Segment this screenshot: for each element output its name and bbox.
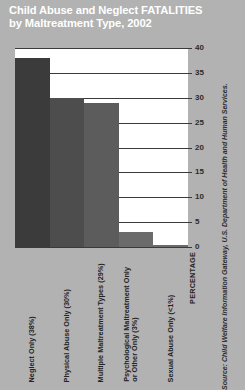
y-tick-label-5: 5 [195, 217, 199, 226]
y-tick-10: 10 [188, 197, 218, 198]
y-tick-mark-25 [188, 123, 192, 124]
y-tick-label-30: 30 [195, 93, 204, 102]
x-axis-label-4: Sexual Abuse Only (<1%) [153, 250, 188, 382]
chart-title: Child Abuse and Neglect FATALITIES by Ma… [9, 4, 237, 30]
y-tick-5: 5 [188, 222, 218, 223]
x-axis-label-3: Psychological Maltreatment Onlyor Other … [119, 250, 154, 382]
y-tick-label-10: 10 [195, 192, 204, 201]
y-axis-ticks: 4035302520151050 [188, 48, 218, 247]
x-axis-category-labels: Neglect Only (38%) Physical Abuse Only (… [15, 250, 188, 382]
x-axis-label-0: Neglect Only (38%) [15, 250, 50, 382]
bar-4 [153, 245, 188, 247]
y-tick-label-35: 35 [195, 68, 204, 77]
y-tick-label-40: 40 [195, 43, 204, 52]
y-tick-label-20: 20 [195, 143, 204, 152]
chart-title-line-2: by Maltreatment Type, 2002 [9, 17, 152, 29]
bar-2 [84, 103, 119, 247]
y-tick-mark-5 [188, 222, 192, 223]
bar-0 [15, 58, 50, 247]
y-tick-0: 0 [188, 247, 218, 248]
y-axis-title: PERCENTAGE [188, 252, 197, 304]
y-tick-label-0: 0 [195, 242, 199, 251]
x-axis-label-1-text: Physical Abuse Only (30%) [62, 289, 70, 382]
y-tick-label-15: 15 [195, 167, 204, 176]
y-tick-mark-0 [188, 247, 192, 248]
y-tick-mark-35 [188, 73, 192, 74]
plot-area [15, 48, 188, 247]
x-axis-label-0-text: Neglect Only (38%) [28, 316, 36, 382]
gridline-0 [15, 247, 188, 248]
x-axis-label-1: Physical Abuse Only (30%) [50, 250, 85, 382]
y-tick-label-25: 25 [195, 118, 204, 127]
bar-3 [119, 232, 154, 247]
x-axis-label-4-text: Sexual Abuse Only (<1%) [166, 294, 174, 382]
y-tick-30: 30 [188, 98, 218, 99]
y-tick-25: 25 [188, 123, 218, 124]
y-tick-15: 15 [188, 172, 218, 173]
bar-1 [50, 98, 85, 247]
source-note: Source: Child Welfare Information Gatewa… [221, 83, 228, 390]
y-tick-35: 35 [188, 73, 218, 74]
bar-series [15, 48, 188, 247]
x-axis-label-2-text: Multiple Maltreatment Types (29%) [97, 263, 105, 382]
y-tick-40: 40 [188, 48, 218, 49]
y-tick-mark-30 [188, 98, 192, 99]
y-tick-mark-15 [188, 172, 192, 173]
y-tick-20: 20 [188, 148, 218, 149]
y-tick-mark-40 [188, 48, 192, 49]
y-tick-mark-20 [188, 148, 192, 149]
x-axis-label-3-line-2: or Other Only (3%) [132, 267, 140, 382]
chart-title-line-1: Child Abuse and Neglect FATALITIES [9, 4, 202, 16]
y-tick-mark-10 [188, 197, 192, 198]
x-axis-label-3-text: Psychological Maltreatment Onlyor Other … [123, 267, 140, 382]
x-axis-label-2: Multiple Maltreatment Types (29%) [84, 250, 119, 382]
